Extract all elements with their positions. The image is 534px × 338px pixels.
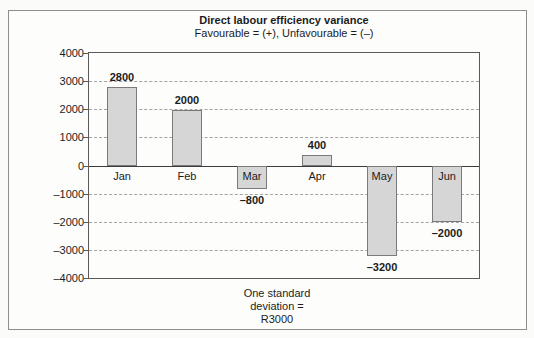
bar-feb (172, 110, 202, 166)
chart-title: Direct labour efficiency variance (88, 14, 480, 26)
category-label-may: May (347, 170, 417, 182)
y-tick-label: 3000 (41, 75, 84, 87)
value-label-jun: –2000 (412, 227, 482, 239)
gridline--3000 (89, 250, 479, 251)
bar-apr (302, 155, 332, 166)
chart-subtitle: Favourable = (+), Unfavourable = (–) (88, 27, 480, 39)
y-tick-mark (83, 222, 89, 223)
value-label-apr: 400 (282, 139, 352, 151)
x-axis-zero-line (89, 166, 479, 167)
y-tick-mark (83, 137, 89, 138)
y-tick-label: –3000 (41, 244, 84, 256)
plot-area: 2800Jan2000Feb–800Mar400Apr–3200May–2000… (88, 52, 480, 279)
category-label-apr: Apr (282, 170, 352, 182)
y-tick-mark (83, 194, 89, 195)
category-label-mar: Mar (217, 170, 287, 182)
y-tick-label: 1000 (41, 131, 84, 143)
category-label-jun: Jun (412, 170, 482, 182)
y-tick-mark (83, 250, 89, 251)
y-tick-label: –2000 (41, 216, 84, 228)
annotation-note: One standard deviation = R3000 (88, 287, 466, 326)
y-tick-label: –1000 (41, 188, 84, 200)
y-tick-mark (83, 166, 89, 167)
value-label-feb: 2000 (152, 94, 222, 106)
y-tick-label: 2000 (41, 103, 84, 115)
y-tick-mark (83, 81, 89, 82)
value-label-jan: 2800 (87, 71, 157, 83)
y-tick-mark (83, 109, 89, 110)
y-tick-label: –4000 (41, 272, 84, 284)
category-label-jan: Jan (87, 170, 157, 182)
gridline-1000 (89, 137, 479, 138)
value-label-mar: –800 (217, 194, 287, 206)
y-tick-label: 0 (41, 160, 84, 172)
annotation-line-1: One standard (88, 287, 466, 300)
y-tick-mark (83, 53, 89, 54)
value-label-may: –3200 (347, 261, 417, 273)
bar-jan (107, 87, 137, 166)
gridline-2000 (89, 109, 479, 110)
y-tick-label: 4000 (41, 47, 84, 59)
category-label-feb: Feb (152, 170, 222, 182)
y-tick-mark (83, 278, 89, 279)
annotation-line-3: R3000 (88, 313, 466, 326)
gridline--2000 (89, 222, 479, 223)
annotation-line-2: deviation = (88, 300, 466, 313)
